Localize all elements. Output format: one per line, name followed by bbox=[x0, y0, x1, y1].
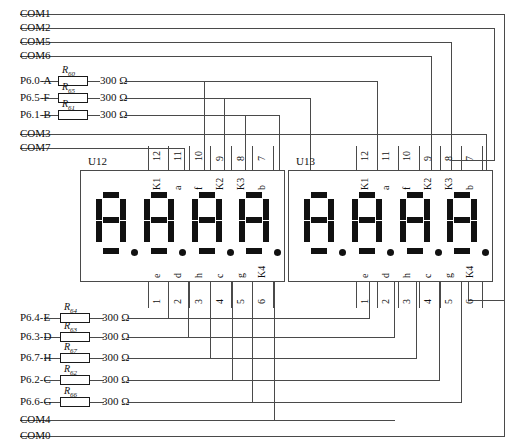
pin-signal-u13-bottom-c: c bbox=[423, 274, 433, 278]
resistor-value-p61b: 300 Ω bbox=[100, 109, 127, 120]
digit-0-0-segment-d bbox=[103, 248, 119, 254]
net-label-p62c: P6.2-C bbox=[20, 374, 51, 385]
digit-0-0-segment-b bbox=[120, 199, 126, 220]
pin-number-u12-bottom-6: 6 bbox=[257, 299, 267, 304]
pin-number-u13-bottom-1: 1 bbox=[360, 299, 370, 304]
digit-0-1-segment-b bbox=[168, 199, 174, 220]
digit-1-2-segment-d bbox=[407, 248, 423, 254]
digit-0-2-segment-c bbox=[216, 221, 222, 242]
digit-1-2-segment-a bbox=[407, 192, 423, 198]
digit-1-2-segment-b bbox=[424, 199, 430, 220]
digit-1-0-decimal-point bbox=[339, 249, 346, 256]
net-label-com1: COM1 bbox=[20, 8, 51, 19]
digit-0-0-segment-f bbox=[96, 199, 102, 220]
digit-0-1-decimal-point bbox=[179, 249, 186, 256]
digit-0-2-decimal-point bbox=[227, 249, 234, 256]
pin-signal-u13-top-K3: K3 bbox=[444, 178, 454, 190]
digit-0-3-segment-c bbox=[263, 221, 269, 242]
pin-number-u12-bottom-4: 4 bbox=[215, 299, 225, 304]
digit-1-2-segment-g bbox=[407, 217, 423, 223]
pin-signal-u12-bottom-h: h bbox=[194, 273, 204, 278]
pin-signal-u13-top-K2: K2 bbox=[423, 178, 433, 190]
digit-0-0-segment-c bbox=[120, 221, 126, 242]
pin-signal-u12-bottom-K4: K4 bbox=[257, 266, 267, 278]
digit-0-1-segment-d bbox=[151, 248, 167, 254]
digit-0-0-segment-e bbox=[96, 221, 102, 242]
pin-number-u12-bottom-1: 1 bbox=[152, 299, 162, 304]
pin-signal-u13-bottom-g: g bbox=[444, 273, 454, 278]
digit-0-3-segment-a bbox=[246, 192, 262, 198]
pin-number-u13-top-8: 8 bbox=[444, 156, 454, 161]
resistor-value-p64e: 300 Ω bbox=[102, 312, 129, 323]
digit-0-0-segment-g bbox=[103, 217, 119, 223]
pin-number-u12-bottom-3: 3 bbox=[194, 299, 204, 304]
pin-number-u12-top-12: 12 bbox=[152, 151, 162, 161]
digit-1-3-segment-e bbox=[447, 221, 453, 242]
pin-number-u13-top-10: 10 bbox=[402, 151, 412, 161]
digit-1-0-segment-c bbox=[328, 221, 334, 242]
digit-1-3-segment-c bbox=[471, 221, 477, 242]
digit-1-1-segment-a bbox=[359, 192, 375, 198]
resistor-value-p60a: 300 Ω bbox=[100, 75, 127, 86]
pin-number-u13-top-11: 11 bbox=[381, 151, 391, 161]
net-label-p61b: P6.1-B bbox=[20, 109, 51, 120]
pin-signal-u12-top-K3: K3 bbox=[236, 178, 246, 190]
digit-0-1-segment-a bbox=[151, 192, 167, 198]
pin-number-u13-top-7: 7 bbox=[465, 156, 475, 161]
digit-0-3-segment-g bbox=[246, 217, 262, 223]
net-label-p64e: P6.4-E bbox=[20, 312, 50, 323]
net-label-p67h: P6.7-H bbox=[20, 352, 51, 363]
digit-1-3-segment-b bbox=[471, 199, 477, 220]
pin-number-u12-top-7: 7 bbox=[257, 156, 267, 161]
pin-signal-u13-top-f: f bbox=[402, 187, 412, 190]
resistor-value-p67h: 300 Ω bbox=[102, 352, 129, 363]
digit-0-1-segment-g bbox=[151, 217, 167, 223]
digit-1-1-segment-e bbox=[352, 221, 358, 242]
net-label-com0: COM0 bbox=[20, 430, 51, 441]
pin-signal-u13-bottom-K4: K4 bbox=[465, 266, 475, 278]
digit-0-3-segment-d bbox=[246, 248, 262, 254]
digit-1-1-decimal-point bbox=[387, 249, 394, 256]
pin-signal-u13-bottom-d: d bbox=[381, 273, 391, 278]
pin-number-u12-bottom-5: 5 bbox=[236, 299, 246, 304]
digit-1-0-segment-e bbox=[304, 221, 310, 242]
digit-0-3-segment-f bbox=[239, 199, 245, 220]
digit-1-1-segment-b bbox=[376, 199, 382, 220]
resistor-value-p62c: 300 Ω bbox=[102, 374, 129, 385]
digit-1-0-segment-a bbox=[311, 192, 327, 198]
digit-0-1-segment-e bbox=[144, 221, 150, 242]
pin-number-u12-top-10: 10 bbox=[194, 151, 204, 161]
digit-1-2-segment-e bbox=[400, 221, 406, 242]
resistor-value-p66g: 300 Ω bbox=[102, 396, 129, 407]
resistor-ref-p62c: R62 bbox=[64, 364, 77, 378]
digit-0-0-segment-a bbox=[103, 192, 119, 198]
digit-0-2-segment-f bbox=[192, 199, 198, 220]
pin-number-u13-bottom-6: 6 bbox=[465, 299, 475, 304]
net-label-com2: COM2 bbox=[20, 22, 51, 33]
digit-1-1-segment-d bbox=[359, 248, 375, 254]
digit-0-2-segment-e bbox=[192, 221, 198, 242]
pin-number-u13-bottom-4: 4 bbox=[423, 299, 433, 304]
resistor-ref-p60a: R60 bbox=[62, 65, 75, 79]
digit-0-2-segment-a bbox=[199, 192, 215, 198]
pin-signal-u13-bottom-e: e bbox=[360, 274, 370, 278]
digit-1-2-decimal-point bbox=[435, 249, 442, 256]
resistor-value-p65f: 300 Ω bbox=[100, 92, 127, 103]
schematic-sheet: COM1COM2COM5COM6P6.0-AR60300 ΩP6.5-FR653… bbox=[0, 0, 525, 441]
module-name-u12: U12 bbox=[88, 156, 107, 167]
pin-signal-u12-top-b: b bbox=[257, 185, 267, 190]
pin-number-u13-bottom-3: 3 bbox=[402, 299, 412, 304]
digit-1-1-segment-g bbox=[359, 217, 375, 223]
pin-signal-u12-bottom-e: e bbox=[152, 274, 162, 278]
net-label-p60a: P6.0-A bbox=[20, 75, 51, 86]
resistor-ref-p65f: R65 bbox=[62, 82, 75, 96]
pin-signal-u12-top-K2: K2 bbox=[215, 178, 225, 190]
net-label-com7: COM7 bbox=[20, 142, 51, 153]
digit-0-2-segment-b bbox=[216, 199, 222, 220]
pin-signal-u13-top-a: a bbox=[381, 186, 391, 190]
net-label-p66g: P6.6-G bbox=[20, 396, 51, 407]
digit-0-0-decimal-point bbox=[131, 249, 138, 256]
net-label-com3: COM3 bbox=[20, 128, 51, 139]
digit-1-0-segment-g bbox=[311, 217, 327, 223]
pin-number-u13-top-12: 12 bbox=[360, 151, 370, 161]
